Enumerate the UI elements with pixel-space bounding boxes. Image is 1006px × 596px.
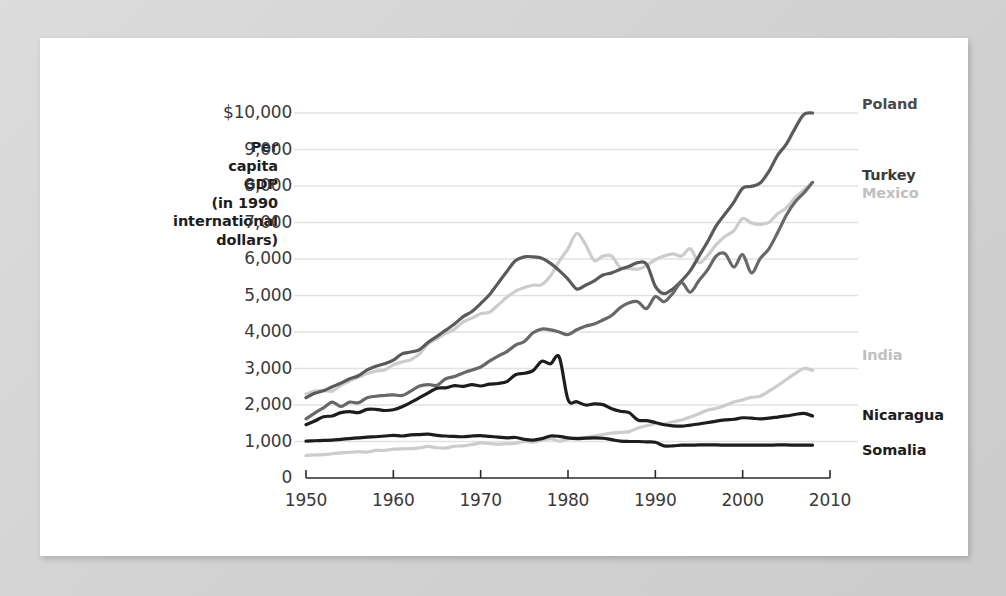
axis-lines	[306, 470, 830, 478]
y-axis-tick-label: 4,000	[172, 321, 292, 341]
x-axis-tick-label: 1980	[533, 490, 603, 510]
y-axis-tick-label: 0	[172, 467, 292, 487]
y-axis-tick-label: $10,000	[172, 102, 292, 122]
x-axis-tick-label: 2010	[795, 490, 865, 510]
series-lines	[306, 113, 813, 456]
y-axis-tick-label: 9,000	[172, 139, 292, 159]
y-axis-tick-label: 7,000	[172, 212, 292, 232]
series-label-mexico: Mexico	[862, 185, 919, 201]
series-label-somalia: Somalia	[862, 442, 926, 458]
y-axis-tick-label: 3,000	[172, 358, 292, 378]
y-axis-tick-label: 6,000	[172, 248, 292, 268]
x-axis-tick-label: 1950	[271, 490, 341, 510]
x-axis-tick-label: 1970	[446, 490, 516, 510]
chart-card: Per capita GDP (in 1990 international do…	[40, 38, 968, 556]
x-axis-tick-label: 1960	[358, 490, 428, 510]
y-axis-tick-label: 8,000	[172, 175, 292, 195]
y-axis-tick-label: 2,000	[172, 394, 292, 414]
series-line-turkey	[306, 182, 813, 419]
series-label-poland: Poland	[862, 96, 917, 112]
series-label-india: India	[862, 347, 902, 363]
y-axis-tick-label: 1,000	[172, 431, 292, 451]
series-label-turkey: Turkey	[862, 167, 916, 183]
x-axis-tick-label: 2000	[708, 490, 778, 510]
y-axis-tick-label: 5,000	[172, 285, 292, 305]
series-line-india	[306, 368, 813, 455]
x-axis-tick-label: 1990	[620, 490, 690, 510]
series-label-nicaragua: Nicaragua	[862, 407, 944, 423]
